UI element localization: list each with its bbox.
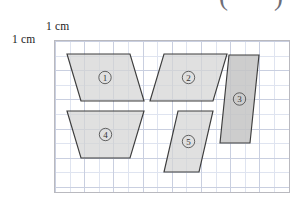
shape-layer: 12345	[54, 40, 290, 193]
cropped-parenthesis-row: ( )	[0, 0, 305, 14]
shapes-svg: 12345	[54, 40, 290, 193]
shape-4-number-label: 4	[103, 130, 108, 140]
shape-2-number-label: 2	[186, 73, 191, 83]
scale-label-horizontal: 1 cm	[46, 20, 69, 32]
shape-2[interactable]: 2	[150, 54, 227, 101]
shape-3[interactable]: 3	[220, 55, 259, 143]
shape-3-number-label: 3	[237, 94, 242, 104]
shape-1[interactable]: 1	[67, 54, 144, 101]
shape-5-number-label: 5	[186, 137, 191, 147]
scale-label-vertical: 1 cm	[12, 33, 35, 45]
shape-1-number-label: 1	[103, 73, 108, 83]
figure-canvas: ( ) 1 cm 1 cm 12345	[0, 0, 305, 203]
shape-4[interactable]: 4	[67, 111, 144, 158]
shape-5[interactable]: 5	[164, 111, 213, 172]
close-paren-glyph: )	[274, 0, 283, 10]
open-paren-glyph: (	[219, 0, 228, 10]
